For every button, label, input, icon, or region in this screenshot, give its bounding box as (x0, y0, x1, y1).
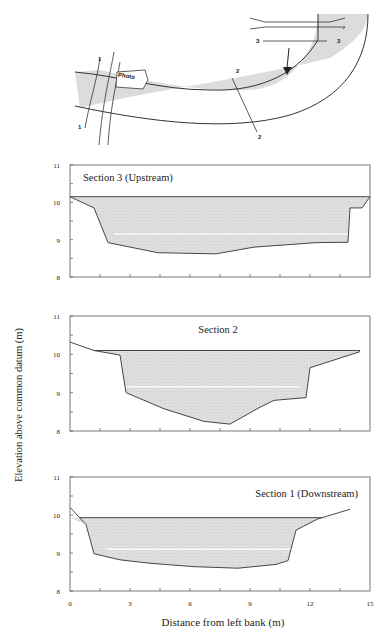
figure: Elevation above common datum (m) Distanc… (0, 0, 387, 643)
y-tick-label: 10 (53, 199, 61, 207)
y-tick-label: 11 (53, 313, 60, 321)
section-2-label-a: 2 (236, 68, 239, 74)
section-3-label-a: 3 (256, 38, 259, 44)
plan-view-diagram (75, 14, 368, 145)
river-channel (75, 14, 368, 108)
x-tick-label: 0 (68, 600, 72, 608)
y-tick-label: 10 (53, 351, 61, 359)
section-1-water-area (70, 518, 350, 569)
y-tick-label: 10 (53, 512, 61, 520)
section-1-label-a: 1 (78, 124, 81, 130)
y-tick-label: 9 (57, 390, 61, 398)
y-tick-label: 8 (57, 428, 61, 436)
section-3-title: Section 3 (Upstream) (83, 172, 173, 184)
y-tick-label: 11 (53, 162, 60, 170)
section-1-label-b: 1 (98, 56, 101, 62)
y-tick-label: 9 (57, 237, 61, 245)
section-1-panel: 89101103691215Section 1 (Downstream) (53, 474, 374, 608)
flow-arrow-shaft (287, 48, 289, 68)
section-2-title: Section 2 (198, 324, 237, 335)
y-tick-label: 8 (57, 274, 61, 282)
section-2-label-b: 2 (258, 134, 261, 140)
x-tick-label: 3 (128, 600, 132, 608)
x-tick-label: 12 (307, 600, 315, 608)
x-tick-label: 6 (188, 600, 192, 608)
y-tick-label: 8 (57, 588, 61, 596)
section-2-panel: 891011Section 2 (53, 313, 370, 436)
section-3-panel: 891011Section 3 (Upstream) (53, 162, 370, 282)
section-3-water-area (70, 197, 370, 254)
y-tick-label: 11 (53, 474, 60, 482)
section-1-title: Section 1 (Downstream) (255, 488, 358, 500)
y-axis-title: Elevation above common datum (m) (13, 328, 25, 482)
x-axis-title: Distance from left bank (m) (162, 616, 285, 629)
x-tick-label: 9 (248, 600, 252, 608)
x-tick-label: 15 (367, 600, 375, 608)
y-tick-label: 9 (57, 550, 61, 558)
section-3-label-b: 3 (337, 38, 340, 44)
